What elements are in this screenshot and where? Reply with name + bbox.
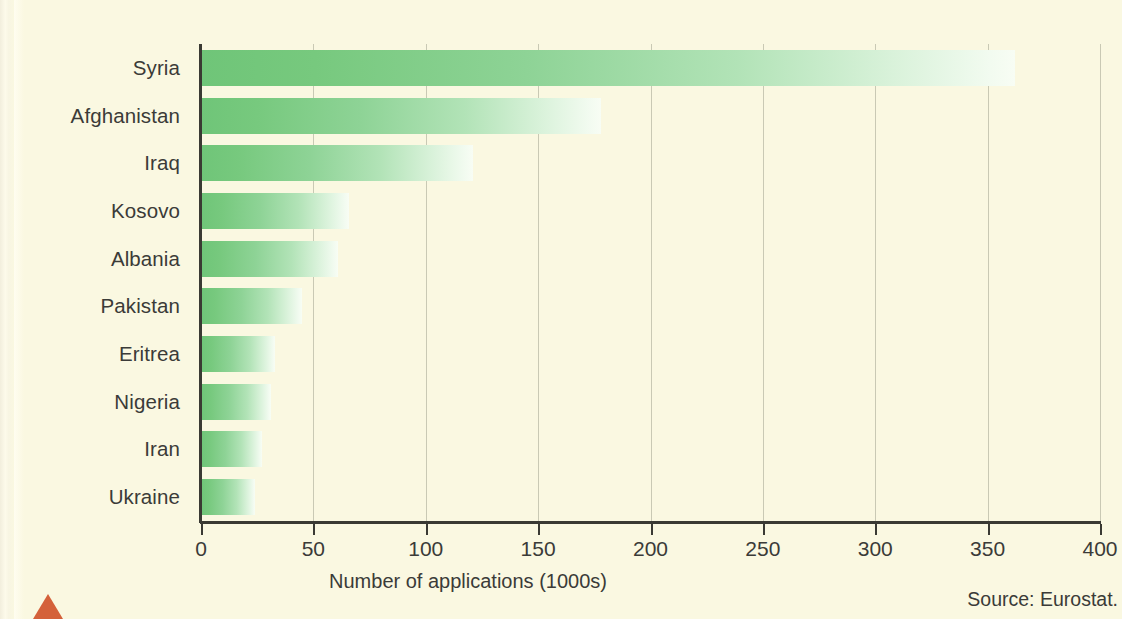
category-label-pakistan: Pakistan <box>101 294 180 318</box>
tick-label-300: 300 <box>858 537 893 561</box>
category-axis: SyriaAfghanistanIraqKosovoAlbaniaPakista… <box>40 44 190 521</box>
category-label-kosovo: Kosovo <box>111 199 180 223</box>
tick-mark <box>651 524 653 535</box>
tick-mark <box>988 524 990 535</box>
bar-kosovo <box>201 193 349 229</box>
bar-row <box>201 241 1100 277</box>
tick-mark <box>538 524 540 535</box>
bar-pakistan <box>201 288 302 324</box>
bar-iraq <box>201 145 473 181</box>
category-label-nigeria: Nigeria <box>114 390 180 414</box>
page-edge-shadow <box>14 0 24 619</box>
gridline <box>1100 44 1101 521</box>
tick-mark <box>1100 524 1102 535</box>
value-axis-line <box>199 44 202 523</box>
tick-label-400: 400 <box>1082 537 1117 561</box>
plot-area <box>201 44 1100 521</box>
tick-mark <box>201 524 203 535</box>
tick-label-100: 100 <box>408 537 443 561</box>
bar-iran <box>201 431 262 467</box>
bar-row <box>201 50 1100 86</box>
bar-row <box>201 336 1100 372</box>
horizontal-bar-chart: SyriaAfghanistanIraqKosovoAlbaniaPakista… <box>40 16 1122 619</box>
bar-row <box>201 145 1100 181</box>
tick-label-250: 250 <box>745 537 780 561</box>
tick-label-0: 0 <box>195 537 207 561</box>
bar-ukraine <box>201 479 255 515</box>
tick-label-200: 200 <box>633 537 668 561</box>
tick-mark <box>426 524 428 535</box>
tick-mark <box>763 524 765 535</box>
bar-row <box>201 288 1100 324</box>
category-label-albania: Albania <box>111 247 180 271</box>
bar-eritrea <box>201 336 275 372</box>
bar-albania <box>201 241 338 277</box>
value-axis-title: Number of applications (1000s) <box>40 570 1122 593</box>
bar-row <box>201 98 1100 134</box>
category-label-iran: Iran <box>144 437 180 461</box>
bar-syria <box>201 50 1015 86</box>
source-note: Source: Eurostat. <box>967 588 1118 611</box>
corner-triangle-marker <box>33 594 63 619</box>
bar-row <box>201 193 1100 229</box>
tick-mark <box>313 524 315 535</box>
tick-mark <box>875 524 877 535</box>
bar-nigeria <box>201 384 271 420</box>
bar-row <box>201 431 1100 467</box>
bar-row <box>201 479 1100 515</box>
bar-afghanistan <box>201 98 601 134</box>
tick-label-50: 50 <box>302 537 325 561</box>
tick-label-150: 150 <box>521 537 556 561</box>
category-label-afghanistan: Afghanistan <box>71 104 180 128</box>
tick-label-350: 350 <box>970 537 1005 561</box>
category-label-ukraine: Ukraine <box>109 485 180 509</box>
category-label-iraq: Iraq <box>144 151 180 175</box>
page-edge-strip <box>0 0 14 619</box>
category-label-eritrea: Eritrea <box>119 342 180 366</box>
category-label-syria: Syria <box>133 56 180 80</box>
bar-row <box>201 384 1100 420</box>
